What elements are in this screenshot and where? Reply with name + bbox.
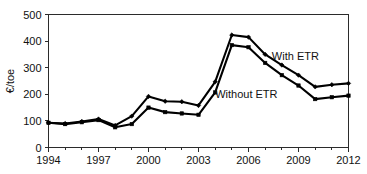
- data-point: [247, 46, 250, 49]
- x-tick-label: 1994: [36, 154, 60, 166]
- data-point: [97, 118, 100, 121]
- x-tick-label: 2012: [336, 154, 360, 166]
- data-point: [313, 97, 316, 100]
- y-tick-label: 500: [23, 9, 41, 21]
- x-tick-label: 2006: [236, 154, 260, 166]
- data-point: [113, 126, 116, 129]
- series-annotation-2: Without ETR: [215, 88, 277, 100]
- series-line: [49, 35, 349, 125]
- data-point: [180, 112, 183, 115]
- data-point: [163, 99, 167, 103]
- data-point: [330, 96, 333, 99]
- line-chart: 0100200300400500 19941997200020032006200…: [0, 0, 367, 174]
- data-point: [347, 94, 350, 97]
- y-tick-label: 400: [23, 35, 41, 47]
- series-annotation-1: With ETR: [272, 50, 319, 62]
- data-point: [147, 106, 150, 109]
- data-point: [330, 83, 334, 87]
- data-point: [230, 43, 233, 46]
- x-axis: 1994199720002003200620092012: [36, 148, 360, 166]
- data-point: [163, 110, 166, 113]
- data-point: [197, 113, 200, 116]
- plot-frame: [49, 15, 349, 148]
- data-point: [47, 121, 50, 124]
- y-tick-label: 0: [35, 142, 41, 154]
- data-point: [280, 73, 283, 76]
- y-tick-label: 200: [23, 88, 41, 100]
- data-point: [346, 81, 350, 85]
- x-tick-label: 1997: [86, 154, 110, 166]
- y-axis: 0100200300400500: [23, 9, 48, 154]
- data-point: [63, 122, 66, 125]
- y-tick-label: 100: [23, 115, 41, 127]
- y-tick-label: 300: [23, 62, 41, 74]
- svg-text:€/toe: €/toe: [4, 69, 16, 93]
- data-point: [263, 61, 266, 64]
- x-tick-label: 2009: [286, 154, 310, 166]
- data-point: [130, 122, 133, 125]
- data-point: [297, 84, 300, 87]
- data-point: [180, 100, 184, 104]
- data-series-group: [46, 33, 350, 129]
- chart-container: 0100200300400500 19941997200020032006200…: [0, 0, 367, 174]
- y-axis-title: €/toe: [4, 69, 16, 93]
- series-annotations: With ETRWithout ETR: [215, 50, 319, 101]
- data-point: [80, 121, 83, 124]
- x-tick-label: 2000: [136, 154, 160, 166]
- x-tick-label: 2003: [186, 154, 210, 166]
